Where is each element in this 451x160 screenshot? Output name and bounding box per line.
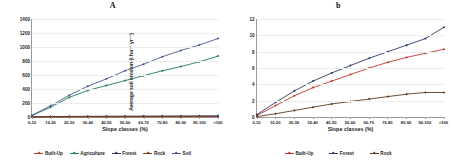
legend-item-built-up[interactable]: Built-Up — [285, 151, 313, 156]
legend-item-agriculture[interactable]: Agriculture — [70, 151, 105, 156]
y-tick-label: 12 — [249, 17, 254, 22]
data-point-marker — [274, 112, 277, 115]
data-point-marker — [198, 44, 201, 47]
data-point-marker — [405, 93, 408, 96]
gridline — [32, 19, 218, 20]
gridline — [32, 33, 218, 34]
data-point-marker — [124, 70, 127, 73]
x-tick-label: 60-70 — [363, 120, 373, 125]
data-point-marker — [142, 63, 145, 66]
data-point-marker — [311, 86, 314, 89]
gridline — [32, 103, 218, 104]
x-tick-mark — [294, 117, 295, 119]
x-tick-label: 30-40 — [83, 120, 93, 125]
legend-line-icon — [172, 153, 181, 154]
y-tick-label: 800 — [22, 59, 30, 64]
legend-line-icon — [370, 153, 379, 154]
x-tick-label: 20-30 — [289, 120, 299, 125]
data-point-marker — [405, 56, 408, 59]
x-tick-mark — [32, 117, 33, 119]
y-tick-label: 400 — [22, 87, 30, 92]
x-tick-mark — [444, 117, 445, 119]
legend-label: Rock — [380, 151, 391, 156]
data-point-marker — [349, 73, 352, 76]
x-axis-title-a: Slope classes (%) — [30, 126, 220, 132]
gridline — [257, 84, 444, 85]
data-point-marker — [217, 55, 220, 58]
data-point-marker — [105, 84, 108, 87]
legend-item-soil[interactable]: Soil — [172, 151, 191, 156]
data-point-marker — [330, 80, 333, 83]
x-tick-mark — [369, 117, 370, 119]
legend-item-rock[interactable]: Rock — [370, 151, 392, 156]
legend-line-icon — [285, 153, 294, 154]
x-axis-title-b: Slope classes (%) — [256, 126, 446, 132]
x-tick-label: 90-100 — [418, 120, 431, 125]
data-point-marker — [442, 48, 445, 51]
gridline — [257, 101, 444, 102]
y-tick-label: 600 — [22, 73, 30, 78]
x-tick-label: 70-80 — [157, 120, 167, 125]
legend-label: Forest — [122, 151, 136, 156]
legend-b: Built-UpForestRock — [226, 151, 451, 156]
x-tick-mark — [350, 117, 351, 119]
legend-line-icon — [112, 153, 121, 154]
y-tick-label: 1200 — [20, 31, 30, 36]
legend-label: Soil — [183, 151, 191, 156]
x-tick-label: >100 — [439, 120, 448, 125]
data-point-marker — [105, 78, 108, 81]
data-point-marker — [217, 37, 220, 40]
data-point-marker — [349, 64, 352, 67]
panel-title-b: b — [226, 1, 451, 10]
gridline — [257, 52, 444, 53]
x-tick-mark — [181, 117, 182, 119]
y-tick-label: 4 — [252, 82, 255, 87]
data-point-marker — [330, 103, 333, 106]
legend-item-built-up[interactable]: Built-Up — [34, 151, 62, 156]
x-tick-label: 60-70 — [138, 120, 148, 125]
plot-area-b: 0246810120-1010-2020-3030-4040-5050-6060… — [256, 19, 444, 118]
legend-item-rock[interactable]: Rock — [143, 151, 165, 156]
data-point-marker — [367, 57, 370, 60]
data-point-marker — [180, 49, 183, 52]
x-tick-label: 50-60 — [345, 120, 355, 125]
x-tick-label: 20-30 — [64, 120, 74, 125]
x-tick-mark — [313, 117, 314, 119]
gridline — [257, 68, 444, 69]
x-tick-label: 90-100 — [193, 120, 206, 125]
x-tick-mark — [199, 117, 200, 119]
y-tick-label: 200 — [22, 101, 30, 106]
legend-label: Built-Up — [295, 151, 313, 156]
x-tick-mark — [275, 117, 276, 119]
data-point-marker — [386, 95, 389, 98]
legend-label: Agriculture — [80, 151, 105, 156]
x-tick-mark — [331, 117, 332, 119]
x-tick-mark — [218, 117, 219, 119]
x-tick-label: 40-50 — [326, 120, 336, 125]
x-tick-mark — [88, 117, 89, 119]
data-point-marker — [330, 72, 333, 75]
data-point-marker — [405, 44, 408, 47]
x-tick-label: 0-10 — [28, 120, 36, 125]
legend-item-forest[interactable]: Forest — [112, 151, 137, 156]
series-line-agriculture — [32, 56, 218, 116]
x-tick-mark — [406, 117, 407, 119]
data-point-marker — [161, 56, 164, 59]
legend-line-icon — [329, 153, 338, 154]
x-tick-mark — [387, 117, 388, 119]
y-tick-label: 2 — [252, 98, 255, 103]
gridline — [32, 47, 218, 48]
panel-title-a: A — [0, 1, 226, 10]
legend-label: Rock — [154, 151, 165, 156]
data-point-marker — [311, 106, 314, 109]
legend-label: Forest — [340, 151, 354, 156]
gridline — [32, 89, 218, 90]
x-tick-label: 10-20 — [270, 120, 280, 125]
x-tick-mark — [144, 117, 145, 119]
legend-label: Built-Up — [45, 151, 63, 156]
data-point-marker — [293, 109, 296, 112]
legend-item-forest[interactable]: Forest — [329, 151, 354, 156]
gridline — [257, 35, 444, 36]
data-point-marker — [386, 61, 389, 64]
legend-line-icon — [143, 153, 152, 154]
